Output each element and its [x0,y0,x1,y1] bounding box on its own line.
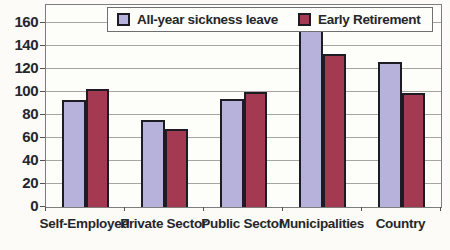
y-axis-label: 100 [0,82,38,100]
bar-sickness-leave [141,120,165,207]
legend-swatch-sickness-leave [117,13,130,26]
bar-chart: All-year sickness leaveEarly Retirement … [0,0,450,250]
legend: All-year sickness leaveEarly Retirement [107,7,433,32]
y-axis-label: 0 [0,197,38,215]
y-axis-tick [40,68,45,69]
y-axis-label: 20 [0,174,38,192]
plot-area [45,4,442,208]
x-axis-tick [124,207,125,211]
x-axis-tick [361,207,362,211]
bar-early-retirement [165,129,189,207]
bar-sickness-leave [378,62,402,207]
y-axis-tick [40,45,45,46]
bar-early-retirement [402,93,426,207]
bar-sickness-leave [220,99,244,207]
legend-swatch-early-retirement [298,13,311,26]
y-axis-tick [40,22,45,23]
legend-entry: All-year sickness leave [117,12,278,27]
y-axis-label: 140 [0,36,38,54]
x-axis-tick [282,207,283,211]
legend-label: Early Retirement [318,12,421,27]
y-axis-tick [40,114,45,115]
x-axis-tick [440,207,441,211]
y-axis-tick [40,137,45,138]
legend-entry: Early Retirement [298,12,421,27]
y-axis-tick [40,160,45,161]
bar-sickness-leave [62,100,86,207]
gridline [46,45,441,46]
y-axis-tick [40,183,45,184]
y-axis-tick [40,91,45,92]
x-axis-tick [203,207,204,211]
y-axis-label: 80 [0,105,38,123]
bar-early-retirement [86,89,110,207]
x-axis-tick [45,207,46,211]
y-axis-label: 160 [0,13,38,31]
y-axis-label: 40 [0,151,38,169]
bar-early-retirement [244,92,268,207]
y-axis-label: 120 [0,59,38,77]
bar-early-retirement [323,54,347,207]
x-axis-label: Country [341,216,450,231]
legend-label: All-year sickness leave [137,12,278,27]
y-axis-label: 60 [0,128,38,146]
bar-sickness-leave [299,26,323,207]
